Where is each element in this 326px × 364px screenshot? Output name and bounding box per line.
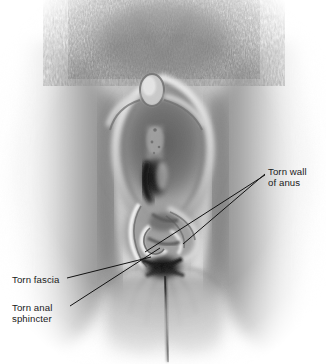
medical-illustration-figure: Torn wall of anus Torn fascia Torn anal … <box>0 0 326 364</box>
label-torn-anal-sphincter: Torn anal sphincter <box>12 302 52 325</box>
label-torn-fascia: Torn fascia <box>12 274 60 285</box>
label-torn-wall-of-anus: Torn wall of anus <box>268 166 307 189</box>
